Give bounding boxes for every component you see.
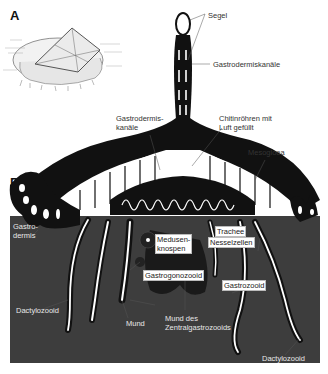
- label-nesselzellen: Nesselzellen: [208, 237, 255, 248]
- diagram-artwork: [0, 0, 328, 374]
- label-gastrogonozooid: Gastrogonozooid: [143, 270, 204, 281]
- label-gastrodermis: Gastro- dermis: [13, 222, 38, 240]
- label-chitinroehren: Chitinröhren mit Luft gefüllt: [219, 114, 272, 132]
- label-trachee: Trachee: [215, 226, 246, 237]
- label-mesogloea: Mesogloea: [248, 148, 285, 157]
- panel-letter-a: A: [10, 8, 19, 23]
- label-gastrodermiskanaele-top: Gastrodermiskanäle: [213, 60, 280, 69]
- label-segel: Segel: [208, 11, 227, 20]
- label-medusenknospen: Medusen- knospen: [155, 234, 192, 254]
- label-mund: Mund: [126, 319, 145, 328]
- panel-letter-b: B: [10, 175, 19, 190]
- label-gastrozooid: Gastrozooid: [222, 280, 266, 291]
- label-mund-zentralgastrozooid: Mund des Zentralgastrozooids: [165, 314, 231, 332]
- panel-a-sketch: [3, 28, 122, 91]
- sail-structure: [174, 13, 192, 120]
- label-dactylozooid-right: Dactylozooid: [262, 354, 305, 363]
- velella-anatomy-figure: A B Segel Gastrodermiskanäle Gastrodermi…: [0, 0, 328, 374]
- label-gastrodermiskanaele-left: Gastrodermis- kanäle: [116, 114, 164, 132]
- label-dactylozooid-left: Dactylozooid: [16, 306, 59, 315]
- float-chambers: [20, 118, 320, 215]
